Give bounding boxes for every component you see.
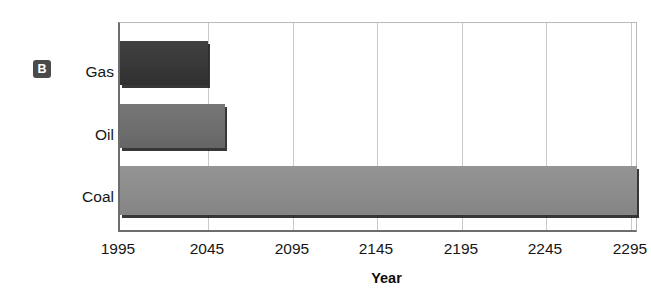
x-tick-1995: 1995 xyxy=(78,240,158,258)
bar-coal[interactable] xyxy=(120,166,637,215)
x-tick-2195: 2195 xyxy=(421,240,501,258)
x-tick-2045: 2045 xyxy=(167,240,247,258)
x-tick-2295: 2295 xyxy=(590,240,651,258)
x-axis-title: Year xyxy=(0,270,651,286)
category-label-oil: Oil xyxy=(56,126,114,144)
x-axis-title-text: Year xyxy=(371,270,402,286)
plot-area xyxy=(118,22,637,232)
category-label-gas: Gas xyxy=(56,63,114,81)
bar-chart-figure: B Gas Oil Coal 1995 2045 2095 2145 2195 … xyxy=(0,0,651,301)
bar-gas[interactable] xyxy=(120,41,208,85)
x-axis-tick-labels: 1995 2045 2095 2145 2195 2245 2295 xyxy=(0,240,651,264)
panel-letter-badge: B xyxy=(33,60,51,78)
bar-oil[interactable] xyxy=(120,104,225,148)
category-label-coal: Coal xyxy=(56,188,114,206)
bar-gas-fill xyxy=(120,41,208,85)
bar-coal-fill xyxy=(120,166,637,215)
x-tick-2095: 2095 xyxy=(252,240,332,258)
x-tick-2145: 2145 xyxy=(336,240,416,258)
bar-oil-fill xyxy=(120,104,225,148)
x-tick-2245: 2245 xyxy=(505,240,585,258)
